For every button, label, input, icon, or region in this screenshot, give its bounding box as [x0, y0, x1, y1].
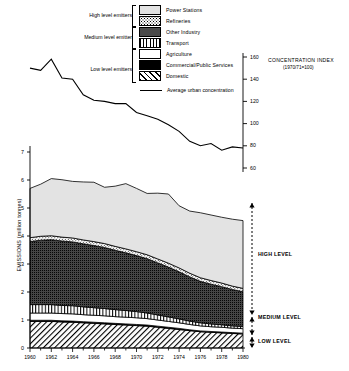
bracket-medium-level-arrow-bottom: [249, 331, 254, 336]
bracket-high-level-arrow-bottom: [249, 311, 254, 316]
line-average-urban-concentration: [30, 59, 243, 150]
bracket-medium-level-arrow-top: [249, 317, 254, 322]
legend-item-average-urban-concentration: Average urban concentration: [140, 87, 234, 93]
bracket-low-level-arrow-top: [249, 337, 254, 342]
bracket-low-level-arrow-bottom: [249, 344, 254, 349]
chart-root: Power StationsRefineriesOther IndustryTr…: [0, 0, 349, 371]
legend-label-average-urban-concentration: Average urban concentration: [167, 87, 234, 93]
legend-line-swatch: [140, 90, 162, 91]
bracket-high-level-arrow-top: [249, 203, 254, 208]
chart-plot: [0, 0, 349, 371]
